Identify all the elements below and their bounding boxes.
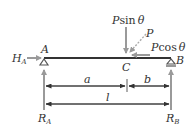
label-pcos: Pcosθ bbox=[150, 41, 186, 54]
label-ra: RA bbox=[37, 112, 51, 126]
support-b-roller bbox=[167, 59, 175, 64]
label-a-point: A bbox=[40, 43, 49, 56]
label-c-point: C bbox=[122, 61, 131, 74]
label-ha: HA bbox=[11, 52, 27, 66]
label-dim-l: l bbox=[106, 91, 110, 104]
force-p-arrow bbox=[130, 34, 146, 52]
label-b-point: B bbox=[175, 54, 184, 67]
label-dim-a: a bbox=[84, 73, 91, 86]
label-psin: Psinθ bbox=[111, 14, 145, 27]
label-rb: RB bbox=[165, 112, 179, 126]
beam-diagram: Psinθ P Pcosθ HA A B C a b l RA RB bbox=[0, 0, 194, 134]
label-p: P bbox=[145, 27, 154, 40]
support-a-pin bbox=[40, 59, 48, 65]
label-dim-b: b bbox=[144, 73, 151, 86]
